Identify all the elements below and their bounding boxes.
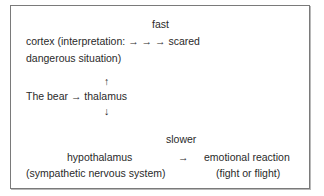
arrow-right-icon: → (178, 151, 189, 163)
hypothalamus-subtext: (sympathetic nervous system) (26, 167, 165, 179)
hypothalamus-text: hypothalamus (67, 151, 132, 163)
emotional-reaction-subtext: (fight or flight) (216, 167, 280, 179)
emotional-reaction-text: emotional reaction (204, 151, 290, 163)
slower-label: slower (166, 133, 196, 145)
bear-thalamus-text: The bear → thalamus (26, 90, 127, 102)
cortex-text: cortex (interpretation: → → → scared (26, 35, 200, 47)
cortex-text-line2: dangerous situation) (26, 52, 121, 64)
arrow-down-icon: ↓ (104, 105, 109, 117)
fast-label: fast (152, 18, 169, 30)
arrow-up-icon: ↑ (104, 75, 109, 87)
